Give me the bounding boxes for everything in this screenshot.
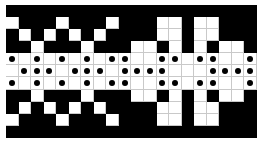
empty-cell (169, 17, 182, 29)
empty-cell (131, 41, 144, 53)
empty-cell (6, 65, 19, 77)
filled-cell (144, 5, 157, 17)
filled-cell (232, 5, 245, 17)
dot-marker (97, 68, 103, 74)
dot-marker (46, 68, 52, 74)
filled-cell (182, 90, 195, 102)
empty-cell (144, 41, 157, 53)
empty-cell (157, 114, 170, 126)
filled-cell (232, 126, 245, 138)
filled-cell (119, 5, 132, 17)
filled-cell (144, 102, 157, 114)
filled-cell (69, 126, 82, 138)
empty-cell (157, 102, 170, 114)
empty-cell (194, 41, 207, 53)
filled-cell (94, 114, 107, 126)
filled-cell (244, 90, 257, 102)
filled-cell (106, 41, 119, 53)
empty-cell (19, 102, 32, 114)
filled-cell (56, 126, 69, 138)
filled-cell (31, 102, 44, 114)
filled-cell (56, 90, 69, 102)
dotted-cell (106, 77, 119, 89)
filled-cell (232, 17, 245, 29)
empty-cell (56, 114, 69, 126)
filled-cell (81, 114, 94, 126)
dotted-cell (169, 53, 182, 65)
filled-cell (157, 41, 170, 53)
dotted-cell (207, 65, 220, 77)
empty-cell (169, 41, 182, 53)
filled-cell (69, 5, 82, 17)
filled-cell (119, 17, 132, 29)
empty-cell (131, 90, 144, 102)
filled-cell (19, 5, 32, 17)
empty-cell (232, 90, 245, 102)
filled-cell (244, 126, 257, 138)
dot-marker (210, 68, 216, 74)
filled-cell (94, 41, 107, 53)
dot-marker (197, 56, 203, 62)
filled-cell (69, 90, 82, 102)
filled-cell (106, 102, 119, 114)
filled-cell (69, 17, 82, 29)
filled-cell (81, 5, 94, 17)
filled-cell (169, 5, 182, 17)
empty-cell (94, 29, 107, 41)
empty-cell (94, 53, 107, 65)
empty-cell (169, 65, 182, 77)
filled-cell (106, 29, 119, 41)
dotted-cell (31, 53, 44, 65)
empty-cell (144, 90, 157, 102)
filled-cell (6, 102, 19, 114)
filled-cell (157, 126, 170, 138)
empty-cell (69, 77, 82, 89)
dotted-cell (219, 65, 232, 77)
empty-cell (69, 29, 82, 41)
empty-cell (69, 102, 82, 114)
pattern-grid (6, 5, 257, 138)
filled-cell (207, 126, 220, 138)
filled-cell (106, 126, 119, 138)
empty-cell (81, 41, 94, 53)
filled-cell (157, 90, 170, 102)
filled-cell (56, 5, 69, 17)
filled-cell (131, 17, 144, 29)
empty-cell (232, 53, 245, 65)
filled-cell (19, 41, 32, 53)
empty-cell (44, 29, 57, 41)
filled-cell (144, 17, 157, 29)
filled-cell (6, 90, 19, 102)
empty-cell (44, 102, 57, 114)
dot-marker (72, 68, 78, 74)
empty-cell (182, 65, 195, 77)
filled-cell (44, 41, 57, 53)
dot-marker (34, 80, 40, 86)
filled-cell (81, 126, 94, 138)
empty-cell (169, 114, 182, 126)
dot-marker (84, 80, 90, 86)
filled-cell (19, 114, 32, 126)
dotted-cell (194, 77, 207, 89)
dotted-cell (31, 77, 44, 89)
filled-cell (44, 90, 57, 102)
filled-cell (119, 102, 132, 114)
filled-cell (81, 17, 94, 29)
filled-cell (207, 41, 220, 53)
empty-cell (194, 17, 207, 29)
dot-marker (9, 56, 15, 62)
filled-cell (69, 41, 82, 53)
dot-marker (210, 56, 216, 62)
empty-cell (144, 77, 157, 89)
dot-marker (247, 68, 253, 74)
dotted-cell (94, 65, 107, 77)
dot-marker (235, 68, 241, 74)
dotted-cell (157, 77, 170, 89)
filled-cell (131, 29, 144, 41)
empty-cell (182, 53, 195, 65)
dotted-cell (131, 65, 144, 77)
empty-cell (219, 77, 232, 89)
dotted-cell (157, 53, 170, 65)
dotted-cell (119, 77, 132, 89)
dotted-cell (232, 65, 245, 77)
